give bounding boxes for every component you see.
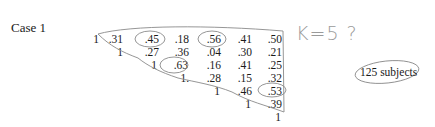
circle-mark: [160, 57, 188, 73]
circle-mark: [258, 83, 286, 97]
circle-mark: [135, 31, 165, 47]
circle-mark: [198, 31, 226, 47]
handwritten-ink-marks: [0, 0, 435, 127]
subjects-label: 125 subjects: [360, 66, 417, 78]
handwritten-note: K=5 ?: [296, 22, 358, 44]
triangle-outline: [98, 27, 284, 112]
